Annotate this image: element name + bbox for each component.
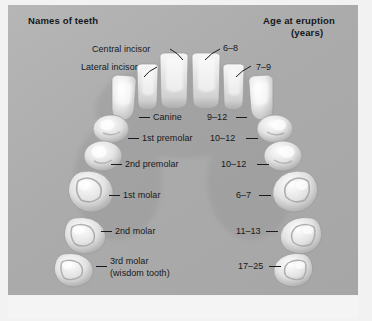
leader-line-age-second-premolar [257, 164, 269, 165]
header-age-at-eruption-units: (years) [291, 27, 323, 39]
dental-eruption-figure: Names of teeth Age at eruption (years) C… [0, 0, 372, 321]
label-second-molar: 2nd molar [115, 226, 155, 237]
age-second-molar: 11–13 [236, 226, 261, 237]
label-canine: Canine [153, 112, 182, 123]
header-age-at-eruption: Age at eruption [263, 15, 335, 27]
leader-line-first-premolar [128, 138, 139, 139]
figure-caption-strip [8, 296, 358, 318]
leader-line-age-first-molar [259, 195, 271, 196]
age-central-incisor: 6–8 [223, 43, 238, 54]
leader-line-canine [139, 117, 150, 118]
label-second-premolar: 2nd premolar [125, 159, 179, 170]
label-first-molar: 1st molar [123, 190, 160, 201]
age-canine: 9–12 [207, 112, 227, 123]
leader-line-age-first-premolar [246, 138, 258, 139]
leader-line-first-molar [109, 195, 120, 196]
leader-line-second-molar [101, 231, 112, 232]
leader-line-age-canine [236, 117, 247, 118]
label-first-premolar: 1st premolar [142, 133, 193, 144]
age-lateral-incisor: 7–9 [256, 62, 271, 73]
label-central-incisor: Central incisor [92, 44, 150, 55]
label-layer: Names of teeth Age at eruption (years) C… [8, 5, 358, 295]
age-third-molar: 17–25 [238, 261, 263, 272]
diagram-panel: Names of teeth Age at eruption (years) C… [8, 5, 358, 295]
leader-line-age-third-molar [269, 266, 281, 267]
label-lateral-incisor: Lateral incisor [81, 62, 138, 73]
label-third-molar: 3rd molar [110, 256, 148, 267]
leader-line-third-molar [96, 266, 107, 267]
label-third-molar-alias: (wisdom tooth) [110, 268, 170, 279]
header-names-of-teeth: Names of teeth [28, 15, 98, 27]
age-first-molar: 6–7 [236, 190, 251, 201]
age-second-premolar: 10–12 [221, 159, 246, 170]
leader-line-second-premolar [111, 164, 122, 165]
leader-line-age-second-molar [266, 231, 278, 232]
age-first-premolar: 10–12 [210, 133, 235, 144]
